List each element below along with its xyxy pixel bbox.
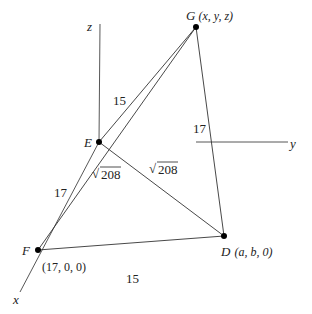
edge-fe-label: 17 <box>54 185 68 200</box>
y-axis-label: y <box>288 136 296 151</box>
point-e <box>96 139 102 145</box>
edge-eg <box>99 27 196 142</box>
edge-eg-label: 15 <box>113 93 126 108</box>
point-f <box>35 247 41 253</box>
point-d-label: D(a, b, 0) <box>220 244 272 259</box>
point-d <box>221 233 227 239</box>
point-f-coords: (17, 0, 0) <box>42 260 86 274</box>
svg-text:√: √ <box>92 166 100 181</box>
x-axis-label: x <box>12 292 19 307</box>
point-g-label: G(x, y, z) <box>186 8 233 23</box>
point-f-label: F <box>21 243 31 258</box>
svg-text:208: 208 <box>158 162 178 177</box>
edge-fd <box>38 236 224 250</box>
edge-ed <box>99 142 224 236</box>
edge-ed-label: √ 208 <box>149 161 178 177</box>
svg-text:208: 208 <box>101 167 121 182</box>
z-axis-label: z <box>86 19 92 34</box>
svg-text:√: √ <box>149 161 157 176</box>
point-e-label: E <box>83 135 92 150</box>
edge-fd-label: 15 <box>126 271 139 286</box>
edge-fg <box>38 27 196 250</box>
edge-gd-label: 17 <box>193 121 207 136</box>
tetrahedron-diagram: z y x G(x, y, z) E F (17, 0, 0) D(a, b, … <box>0 0 312 314</box>
z-axis <box>99 24 100 142</box>
point-g <box>193 24 199 30</box>
edge-fg-label: √ 208 <box>92 166 121 182</box>
